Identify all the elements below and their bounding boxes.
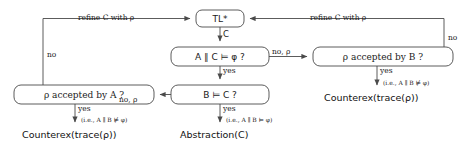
edge-label-yes-bc: yes (223, 104, 236, 113)
edge-label-no-right: no (448, 33, 457, 42)
terminal-counterex-left: Counterex(trace(ρ)) (22, 129, 116, 140)
edge-label-c: C (223, 29, 229, 39)
note-counterex-left: (i.e., A ∥ B ⊭ φ) (81, 116, 127, 123)
edge-label-refine-left: refine C with ρ (78, 13, 134, 22)
node-shape-ac (171, 47, 269, 66)
node-shape-bc (171, 85, 269, 104)
terminal-abstraction: Abstraction(C) (180, 129, 248, 140)
edge-label-yes-rb: yes (380, 66, 393, 75)
edge-label-no-rho-right: no, ρ (272, 47, 291, 56)
flowchart-edges-layer: B |= C ? --> rho accepted by B ? --> rho… (0, 0, 459, 150)
node-shape-tl (196, 10, 244, 27)
note-abstraction: (i.e., A ∥ B ⊨ φ) (226, 116, 272, 123)
edge-ra-to-tl (43, 19, 190, 86)
flowchart-diagram: B |= C ? --> rho accepted by B ? --> rho… (0, 0, 459, 150)
edge-label-yes-ra: yes (78, 104, 91, 113)
node-shape-rb (313, 47, 453, 66)
edge-label-no-rho-left: no, ρ (119, 95, 138, 104)
edge-label-no-left: no (47, 50, 56, 59)
terminal-counterex-right: Counterex(trace(ρ)) (324, 92, 418, 103)
edge-label-yes-ac: yes (223, 66, 236, 75)
edge-label-refine-right: refine C with ρ (310, 13, 366, 22)
note-counterex-right: (i.e., A ∥ B ⊭ φ) (383, 79, 429, 86)
edge-rb-to-tl (250, 19, 444, 48)
